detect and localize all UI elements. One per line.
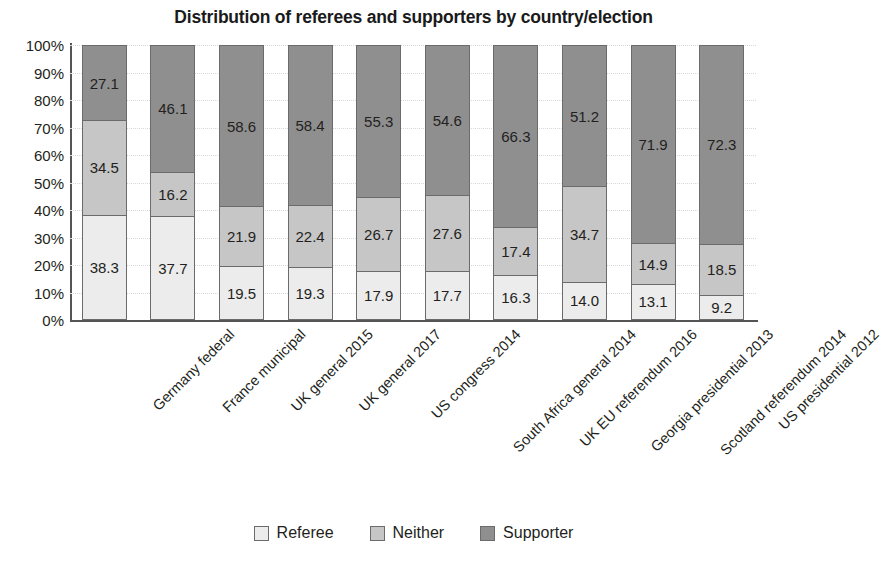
legend-item-supporter[interactable]: Supporter (480, 524, 573, 542)
bar-value-label: 54.6 (433, 113, 462, 128)
y-axis-tick-label: 0% (8, 312, 64, 329)
bar-segment-neither[interactable]: 17.4 (493, 227, 538, 275)
stacked-bar[interactable]: 17.727.654.6 (425, 45, 470, 320)
bar-value-label: 38.3 (90, 260, 119, 275)
bar-value-label: 37.7 (158, 261, 187, 276)
bar-value-label: 27.6 (433, 226, 462, 241)
legend-swatch (480, 526, 495, 541)
y-axis-tick-label: 10% (8, 284, 64, 301)
bar-segment-supporter[interactable]: 55.3 (356, 45, 401, 197)
plot-area: 38.334.527.137.716.246.119.521.958.619.3… (70, 45, 756, 320)
bar-value-label: 17.9 (364, 288, 393, 303)
bar-segment-referee[interactable]: 17.7 (425, 271, 470, 320)
legend-label: Supporter (503, 524, 573, 542)
y-axis-tick-label: 30% (8, 229, 64, 246)
legend-swatch (370, 526, 385, 541)
x-axis-tick-label: South Africa general 2014 (510, 326, 639, 455)
bar-value-label: 72.3 (707, 137, 736, 152)
x-axis-tick-label: Scotland referendum 2014 (717, 326, 849, 458)
stacked-bar[interactable]: 37.716.246.1 (150, 45, 195, 320)
bar-segment-referee[interactable]: 9.2 (699, 295, 744, 320)
bar-value-label: 17.4 (501, 244, 530, 259)
stacked-bar[interactable]: 38.334.527.1 (82, 45, 127, 320)
bar-value-label: 27.1 (90, 76, 119, 91)
bar-value-label: 34.7 (570, 227, 599, 242)
stacked-bar[interactable]: 13.114.971.9 (631, 45, 676, 320)
bar-value-label: 66.3 (501, 129, 530, 144)
bar-value-label: 55.3 (364, 114, 393, 129)
bar-segment-referee[interactable]: 16.3 (493, 275, 538, 320)
y-axis-tick-label: 40% (8, 202, 64, 219)
y-axis-tick-label: 100% (8, 37, 64, 54)
bar-segment-supporter[interactable]: 54.6 (425, 45, 470, 195)
y-axis-tick-label: 90% (8, 64, 64, 81)
bar-segment-referee[interactable]: 13.1 (631, 284, 676, 320)
chart-title: Distribution of referees and supporters … (0, 7, 827, 28)
y-axis-tick-label: 60% (8, 147, 64, 164)
bar-value-label: 58.4 (295, 118, 324, 133)
bar-value-label: 16.3 (501, 290, 530, 305)
bar-segment-neither[interactable]: 34.7 (562, 186, 607, 281)
bar-segment-neither[interactable]: 22.4 (288, 205, 333, 267)
y-axis: 0%10%20%30%40%50%60%70%80%90%100% (0, 45, 64, 320)
bar-value-label: 19.3 (295, 286, 324, 301)
bar-value-label: 51.2 (570, 109, 599, 124)
bar-segment-neither[interactable]: 21.9 (219, 206, 264, 266)
legend-item-referee[interactable]: Referee (254, 524, 334, 542)
bar-segment-supporter[interactable]: 72.3 (699, 45, 744, 244)
legend-item-neither[interactable]: Neither (370, 524, 445, 542)
legend-label: Neither (393, 524, 445, 542)
bar-segment-referee[interactable]: 37.7 (150, 216, 195, 320)
bar-value-label: 17.7 (433, 288, 462, 303)
bar-value-label: 14.9 (638, 257, 667, 272)
bar-segment-neither[interactable]: 16.2 (150, 172, 195, 217)
stacked-bar[interactable]: 19.322.458.4 (288, 45, 333, 320)
bar-value-label: 13.1 (638, 294, 667, 309)
bar-segment-neither[interactable]: 18.5 (699, 244, 744, 295)
bar-segment-supporter[interactable]: 27.1 (82, 45, 127, 120)
y-axis-tick-label: 70% (8, 119, 64, 136)
bar-value-label: 58.6 (227, 119, 256, 134)
bar-value-label: 19.5 (227, 286, 256, 301)
bar-segment-neither[interactable]: 26.7 (356, 197, 401, 270)
bar-segment-supporter[interactable]: 66.3 (493, 45, 538, 227)
bar-segment-referee[interactable]: 14.0 (562, 282, 607, 321)
y-axis-tick-label: 20% (8, 257, 64, 274)
bar-value-label: 16.2 (158, 187, 187, 202)
stacked-bar[interactable]: 17.926.755.3 (356, 45, 401, 320)
bar-segment-neither[interactable]: 14.9 (631, 243, 676, 284)
bar-value-label: 14.0 (570, 293, 599, 308)
legend-swatch (254, 526, 269, 541)
bar-value-label: 46.1 (158, 101, 187, 116)
y-axis-tick-label: 80% (8, 92, 64, 109)
bar-segment-referee[interactable]: 38.3 (82, 215, 127, 320)
stacked-bar[interactable]: 9.218.572.3 (699, 45, 744, 320)
bar-value-label: 71.9 (638, 137, 667, 152)
bar-value-label: 21.9 (227, 229, 256, 244)
bar-segment-referee[interactable]: 19.3 (288, 267, 333, 320)
bar-segment-neither[interactable]: 34.5 (82, 120, 127, 215)
bar-segment-supporter[interactable]: 58.6 (219, 45, 264, 206)
bar-segment-supporter[interactable]: 46.1 (150, 45, 195, 172)
x-axis-labels: Germany federalFrance municipalUK genera… (70, 322, 756, 482)
bar-segment-supporter[interactable]: 51.2 (562, 45, 607, 186)
x-axis-tick-label: Georgia presidential 2013 (647, 326, 776, 455)
stacked-bar[interactable]: 19.521.958.6 (219, 45, 264, 320)
bar-value-label: 18.5 (707, 262, 736, 277)
bar-value-label: 26.7 (364, 227, 393, 242)
stacked-bar[interactable]: 16.317.466.3 (493, 45, 538, 320)
chart-legend: RefereeNeitherSupporter (0, 524, 827, 542)
y-axis-tick-label: 50% (8, 174, 64, 191)
bar-value-label: 22.4 (295, 229, 324, 244)
bar-segment-supporter[interactable]: 58.4 (288, 45, 333, 205)
bar-segment-supporter[interactable]: 71.9 (631, 45, 676, 243)
legend-label: Referee (277, 524, 334, 542)
bar-value-label: 9.2 (711, 300, 732, 315)
bar-segment-referee[interactable]: 17.9 (356, 271, 401, 320)
stacked-bar[interactable]: 14.034.751.2 (562, 45, 607, 320)
bar-segment-neither[interactable]: 27.6 (425, 195, 470, 271)
bar-segment-referee[interactable]: 19.5 (219, 266, 264, 320)
x-axis-tick-label: US congress 2014 (428, 326, 524, 422)
bar-value-label: 34.5 (90, 160, 119, 175)
